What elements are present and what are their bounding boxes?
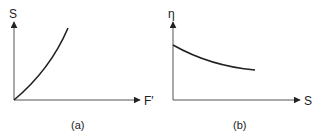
figure-canvas: S F′ (a) η S (b)	[0, 0, 319, 136]
panel-a-y-label: S	[9, 7, 17, 21]
panel-b-y-label: η	[168, 7, 175, 21]
panel-a-x-label: F′	[144, 94, 154, 108]
panel-b: η S (b)	[168, 7, 312, 131]
panel-a: S F′ (a)	[9, 7, 154, 131]
panel-b-x-label: S	[304, 94, 312, 108]
panel-a-caption: (a)	[71, 119, 84, 131]
panel-b-curve	[173, 45, 255, 70]
panel-b-caption: (b)	[233, 119, 246, 131]
panel-a-curve	[14, 28, 68, 100]
